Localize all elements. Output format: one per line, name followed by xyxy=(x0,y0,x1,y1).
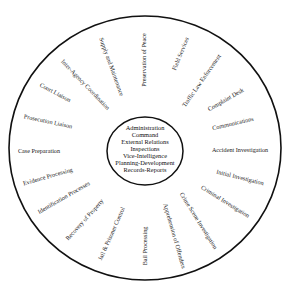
ring-label-case-preparation: Case Preparation xyxy=(18,147,60,154)
ring-label-recovery-of-property: Recovery of Property xyxy=(64,196,105,241)
hub-function-administration: Administration xyxy=(126,124,166,131)
hub-function-command: Command xyxy=(132,131,159,138)
hub-function-records-reports: Records-Reports xyxy=(124,166,167,173)
ring-label-identification-processes: Identification Processes xyxy=(36,179,91,215)
hub-function-vice-intelligence: Vice-Intelligence xyxy=(123,152,167,159)
center-hub-functions: Administration Command External Relation… xyxy=(115,124,175,173)
ring-label-communications: Communications xyxy=(211,115,254,131)
ring-label-inter-agency-coordination: Inter-Agency Coordination xyxy=(60,58,112,111)
ring-label-supply-and-maintenance: Supply and Maintenance xyxy=(98,37,126,97)
ring-label-accident-investigation: Accident Investigation xyxy=(212,146,268,153)
hub-function-inspections: Inspections xyxy=(130,145,160,152)
hub-function-external-relations: External Relations xyxy=(121,138,169,145)
ring-label-field-services: Field Services xyxy=(170,35,190,71)
ring-label-complaint-desk: Complaint Desk xyxy=(206,85,245,112)
ring-label-evidence-processing: Evidence Processing xyxy=(22,166,73,187)
ring-label-criminal-investigation: Criminal Investigation xyxy=(200,183,251,219)
ring-label-apprehension-of-offenders: Apprehension of Offenders xyxy=(162,202,188,269)
police-functions-wheel-diagram: Administration Command External Relation… xyxy=(0,0,284,289)
ring-label-court-liaison: Court Liaison xyxy=(39,81,72,103)
ring-label-crime-scene-investigation: Crime Scene Investigation xyxy=(179,191,220,250)
hub-function-planning-development: Planning-Development xyxy=(115,159,175,166)
ring-label-jail-prisoner-control: Jail & Prisoner Control xyxy=(96,206,126,262)
ring-label-initial-investigation: Initial Investigation xyxy=(216,168,265,187)
ring-label-prosecution-liaison: Prosecution Liaison xyxy=(23,112,73,129)
ring-label-bail-processing: Bail Processing xyxy=(141,227,148,266)
ring-label-preservation-of-peace: Preservation of Peace xyxy=(140,33,147,87)
